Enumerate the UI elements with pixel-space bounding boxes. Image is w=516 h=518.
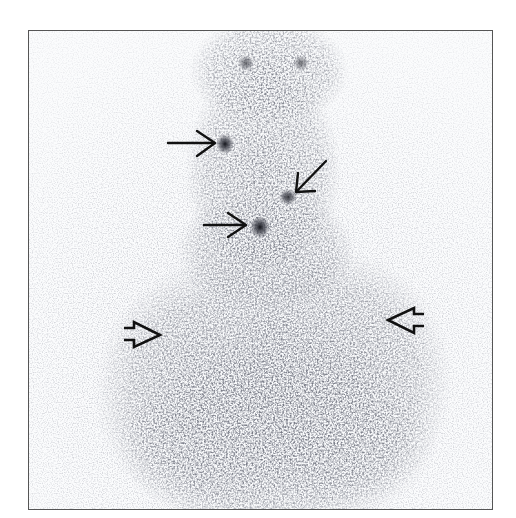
- uptake-spot-top-left: [238, 55, 254, 71]
- hot-spot-1: [216, 134, 234, 154]
- hot-spot-2: [279, 189, 297, 205]
- scintigraphy-figure: [0, 0, 516, 518]
- chest-uptake-region: [96, 251, 451, 510]
- scan-image-frame: [28, 30, 493, 510]
- scan-image: [29, 31, 493, 510]
- hot-spot-3: [250, 216, 270, 238]
- uptake-spot-top-right: [293, 55, 309, 71]
